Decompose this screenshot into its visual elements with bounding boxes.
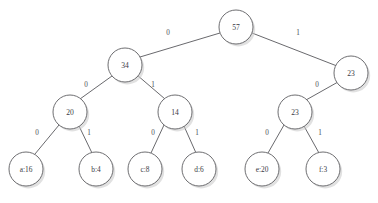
huffman-tree-diagram: 573423201423a:16b:4c:8d:6e:20f:3 0101001… — [0, 0, 378, 203]
edge-label-n14-lc: 0 — [151, 129, 155, 137]
node-label-lf: f:3 — [319, 165, 328, 174]
node-label-lc: c:8 — [140, 165, 149, 174]
node-label-n20: 20 — [66, 108, 74, 117]
edge-label-n34-n14: 1 — [151, 81, 155, 89]
tree-edge-n14-ld — [184, 126, 196, 153]
edges-layer — [35, 33, 338, 154]
edge-label-root-n34: 0 — [166, 29, 170, 37]
edge-label-n23b-lf: 1 — [318, 129, 322, 137]
tree-edge-n23a-n23b — [306, 82, 338, 100]
tree-edge-root-n34 — [140, 33, 220, 57]
edge-label-n23a-n23b: 0 — [315, 81, 319, 89]
node-label-n14: 14 — [171, 108, 179, 117]
node-label-le: e:20 — [256, 165, 269, 174]
node-label-n23a: 23 — [347, 69, 355, 78]
node-label-n23b: 23 — [291, 108, 299, 117]
edge-label-n14-ld: 1 — [195, 129, 199, 137]
node-label-ld: d:6 — [194, 165, 204, 174]
edge-label-n20-lb: 1 — [87, 129, 91, 137]
edge-label-n23b-le: 0 — [265, 129, 269, 137]
tree-canvas: 573423201423a:16b:4c:8d:6e:20f:3 0101001… — [0, 0, 378, 203]
edge-label-root-n23a: 1 — [296, 29, 300, 37]
node-label-lb: b:4 — [91, 165, 101, 174]
tree-edge-root-n23a — [252, 33, 337, 66]
node-label-root: 57 — [232, 23, 240, 32]
tree-edge-n23b-lf — [304, 126, 319, 153]
nodes-layer: 573423201423a:16b:4c:8d:6e:20f:3 — [9, 10, 370, 188]
node-label-la: a:16 — [20, 165, 33, 174]
tree-edge-n23b-le — [268, 125, 284, 153]
edge-label-n20-la: 0 — [35, 129, 39, 137]
edge-label-n34-n20: 0 — [84, 81, 88, 89]
node-label-n34: 34 — [121, 61, 129, 70]
